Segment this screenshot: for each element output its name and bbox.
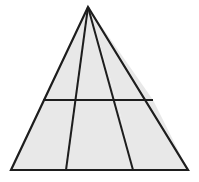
geometry-figure-container [0, 0, 199, 182]
region-bottom-left [11, 100, 74, 170]
region-fills [11, 7, 188, 170]
geometry-diagram-svg [0, 0, 199, 182]
